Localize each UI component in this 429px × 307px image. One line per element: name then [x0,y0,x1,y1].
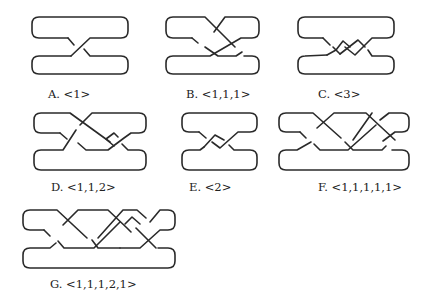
figure-c-knot-diagram [298,17,394,74]
figure-b-knot-diagram [166,17,259,74]
figure-d-caption: D. <1,1,2> [51,180,116,194]
figure-a-knot-diagram [32,17,128,74]
figure-e-caption: E. <2> [189,180,231,194]
figure-f-caption: F. <1,1,1,1,1> [318,180,402,194]
figure-c-caption: C. <3> [318,87,360,101]
tangle-diagrams [0,0,429,307]
figure-g-caption: G. <1,1,1,2,1> [50,277,137,291]
figure-e-knot-diagram [182,113,257,170]
figure-b-caption: B. <1,1,1> [186,87,250,101]
figure-f-knot-diagram [279,113,409,170]
figure-a-caption: A. <1> [48,87,90,101]
figure-d-knot-diagram [34,113,146,170]
figure-g-knot-diagram [23,210,175,268]
